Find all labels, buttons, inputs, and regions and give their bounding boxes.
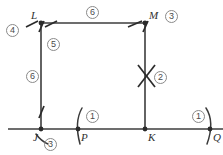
geometry-diagram: LMJPKQ 463562311 bbox=[0, 0, 223, 155]
step-6-top-badge: 6 bbox=[86, 6, 99, 19]
point-label-k: K bbox=[148, 132, 155, 143]
arc-marks-group bbox=[36, 108, 211, 144]
step-1-left-badge: 1 bbox=[86, 110, 99, 123]
arc-at-Q bbox=[206, 108, 211, 144]
step-6-left-badge: 6 bbox=[26, 70, 39, 83]
vertex-dots-group bbox=[39, 21, 213, 132]
vertex-dot-p bbox=[76, 127, 81, 132]
vertex-dot-l bbox=[39, 21, 44, 26]
vertex-dot-k bbox=[143, 127, 148, 132]
tick-L-top-left bbox=[26, 21, 38, 27]
step-5-badge: 5 bbox=[47, 38, 60, 51]
tick-L-top-right bbox=[45, 21, 57, 27]
point-label-m: M bbox=[149, 10, 158, 21]
point-label-j: J bbox=[33, 132, 38, 143]
step-3-bottom-badge: 3 bbox=[44, 138, 57, 151]
vertex-dot-j bbox=[39, 127, 44, 132]
point-label-q: Q bbox=[213, 132, 221, 143]
step-2-badge: 2 bbox=[154, 71, 167, 84]
tick-M-top-left bbox=[128, 21, 142, 27]
point-label-l: L bbox=[31, 10, 37, 21]
tick-marks-group bbox=[26, 21, 155, 118]
step-4-badge: 4 bbox=[6, 24, 19, 37]
step-3-top-badge: 3 bbox=[165, 10, 178, 23]
vertex-dot-m bbox=[143, 21, 148, 26]
vertex-dot-q bbox=[208, 127, 213, 132]
point-label-p: P bbox=[81, 132, 88, 143]
step-1-right-badge: 1 bbox=[192, 110, 205, 123]
